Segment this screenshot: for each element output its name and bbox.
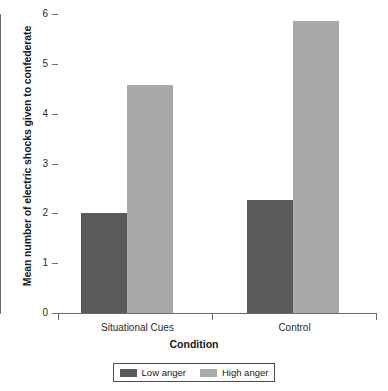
legend-label-low-anger: Low anger: [142, 368, 186, 378]
x-tick-right-end: [376, 314, 377, 320]
bar-control-low-anger: [247, 200, 293, 313]
legend-swatch-low-anger: [120, 369, 137, 377]
bar-chart: Mean number of electric shocks given to …: [0, 0, 388, 391]
x-category-label-control: Control: [222, 322, 367, 334]
x-tick-separator: [212, 314, 213, 320]
x-category-label-situational-cues: Situational Cues: [65, 322, 210, 334]
bar-situational-cues-high-anger: [127, 85, 173, 313]
bar-situational-cues-low-anger: [81, 213, 127, 313]
legend: Low anger High anger: [113, 363, 275, 382]
bar-control-high-anger: [293, 21, 339, 313]
legend-entry-low-anger: Low anger: [120, 368, 186, 378]
x-axis-title: Condition: [0, 338, 388, 351]
legend-entry-high-anger: High anger: [200, 368, 268, 378]
legend-label-high-anger: High anger: [222, 368, 268, 378]
x-axis-line: [58, 313, 377, 314]
x-tick-left-end: [58, 314, 59, 320]
bars-layer: [0, 0, 388, 313]
legend-swatch-high-anger: [200, 369, 217, 377]
